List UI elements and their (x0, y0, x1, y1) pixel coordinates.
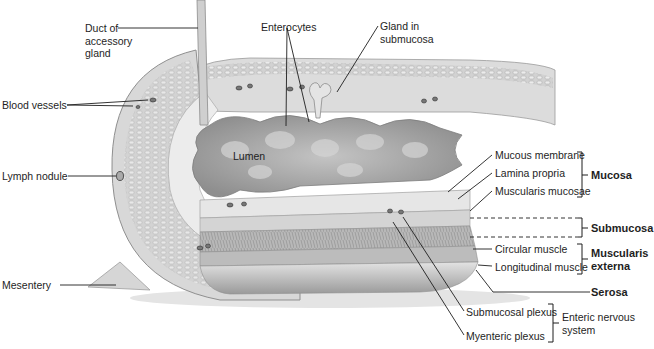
submucosa-dashed-lines (470, 218, 578, 237)
label-muscularis-mucosae: Muscularis mucosae (495, 185, 591, 198)
lymph-nodule-shape (117, 172, 124, 181)
group-enteric-nervous-system: Enteric nervous system (562, 311, 635, 336)
label-mucous-membrane: Mucous membrane (495, 149, 585, 162)
label-lymph-nodule: Lymph nodule (2, 170, 68, 183)
label-gland: Gland in submucosa (380, 20, 434, 45)
label-mesentery: Mesentery (2, 279, 51, 292)
label-lamina-propria: Lamina propria (495, 167, 565, 180)
label-duct: Duct of accessory gland (85, 22, 132, 60)
serosa-band (200, 262, 478, 294)
label-longitudinal-muscle: Longitudinal muscle (495, 261, 588, 274)
group-mucosa: Mucosa (591, 169, 632, 182)
label-blood-vessels: Blood vessels (2, 99, 67, 112)
label-lumen: Lumen (233, 150, 265, 163)
label-circular-muscle: Circular muscle (495, 243, 567, 256)
mesentery-shape (88, 262, 150, 290)
group-serosa: Serosa (591, 286, 628, 299)
label-submucosal-plexus: Submucosal plexus (466, 306, 557, 319)
group-muscularis-externa: Muscularis externa (591, 247, 648, 272)
label-myenteric-plexus: Myenteric plexus (466, 330, 545, 343)
label-enterocytes: Enterocytes (261, 21, 316, 34)
gi-wall-diagram: Duct of accessory gland Enterocytes Glan… (0, 0, 654, 349)
group-submucosa: Submucosa (591, 222, 653, 235)
